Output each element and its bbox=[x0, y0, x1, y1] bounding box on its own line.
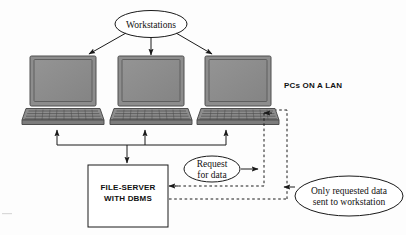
lan-label: PCs ON A LAN bbox=[284, 81, 342, 90]
file-server-box: FILE-SERVER WITH DBMS bbox=[88, 165, 168, 227]
diagram-canvas: Workstations PCs ON A LAN FILE-SERVER WI… bbox=[0, 0, 406, 235]
file-server-label-line2: WITH DBMS bbox=[104, 194, 152, 203]
workstations-node-label: Workstations bbox=[126, 20, 176, 30]
request-node-label-line2: for data bbox=[197, 170, 227, 180]
workstation-1 bbox=[22, 56, 104, 125]
response-note-node: Only requested data sent to workstation bbox=[295, 176, 403, 216]
scan-artifact bbox=[2, 213, 12, 214]
workstation-3 bbox=[197, 56, 279, 125]
response-note-label-line2: sent to workstation bbox=[313, 197, 386, 207]
file-server-label-line1: FILE-SERVER bbox=[101, 183, 156, 192]
request-for-data-node: Request for data bbox=[184, 156, 240, 182]
workstation-2 bbox=[110, 56, 192, 125]
request-node-label-line1: Request bbox=[197, 159, 228, 169]
response-note-label-line1: Only requested data bbox=[311, 186, 388, 196]
